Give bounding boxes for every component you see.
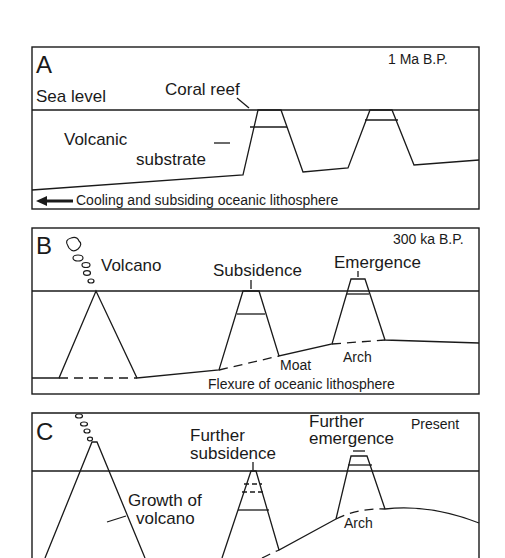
island-evolution-diagram: A 1 Ma B.P. Sea level Coral reef Volcani… [0,0,505,558]
coral-reef-label: Coral reef [165,80,240,99]
buried-floor-dashed-3 [332,340,385,344]
arch-profile-c [385,508,479,523]
further-subsidence-label-1: Further [190,426,245,445]
substrate-label: substrate [136,150,206,169]
growth-leader [107,516,126,522]
sea-level-label: Sea level [36,87,106,106]
eruption-plume-icon-c [76,414,93,441]
growth-label-2: volcano [136,509,195,528]
arch-label-b: Arch [343,349,372,365]
lithosphere-label-b: Flexure of oceanic lithosphere [208,376,395,392]
panel-b: B 300 ka B.P. Volcano Subsidence Emergen… [32,228,479,394]
subsidence-label: Subsidence [213,261,302,280]
atoll-c [222,471,336,558]
further-subsidence-label-2: subsidence [190,444,276,463]
eruption-plume-icon [67,237,94,283]
seafloor-profile-a [32,110,479,190]
seafloor-profile-b [32,279,479,378]
panel-a-age: 1 Ma B.P. [388,51,448,67]
further-emergence-label-2: emergence [309,429,394,448]
buried-floor-dashed-c1 [262,550,279,558]
volcano-label: Volcano [101,256,162,275]
panel-a: A 1 Ma B.P. Sea level Coral reef Volcani… [32,47,479,209]
lithosphere-label-a: Cooling and subsiding oceanic lithospher… [76,192,339,208]
panel-c-age: Present [411,416,459,432]
left-arrow-icon [36,196,73,206]
panel-c-frame [32,413,479,558]
panel-b-letter: B [36,232,52,259]
buried-floor-dashed-2 [219,356,279,370]
growth-label-1: Growth of [128,491,202,510]
panel-c-letter: C [36,418,53,445]
volcanic-label: Volcanic [64,130,128,149]
arch-label-c: Arch [344,515,373,531]
moat-label: Moat [280,357,311,373]
emergence-label: Emergence [334,253,421,272]
panel-b-age: 300 ka B.P. [393,231,464,247]
coral-reef-leader [237,98,249,108]
panel-a-letter: A [36,51,52,78]
panel-c: C Present Further subsidence Further eme… [32,412,479,558]
